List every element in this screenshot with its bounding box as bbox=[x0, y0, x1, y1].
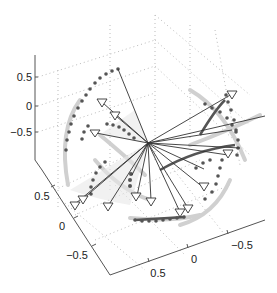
shaded-sectors bbox=[70, 110, 148, 205]
x-tick-label: 0.5 bbox=[150, 267, 165, 279]
x-tick-label: 0 bbox=[191, 253, 197, 265]
y-axis-tick-labels: 0.5 0 −0.5 bbox=[34, 190, 88, 261]
x-axis-tick-labels: 0.5 0 −0.5 bbox=[150, 239, 253, 279]
z-tick-label: 0.5 bbox=[17, 71, 32, 83]
x-tick-label: −0.5 bbox=[231, 239, 253, 251]
z-axis-tick-labels: 0.5 0 −0.5 bbox=[10, 71, 32, 138]
z-tick-label: 0 bbox=[26, 100, 32, 112]
3d-plot: 0.5 0 −0.5 0.5 0 −0.5 0.5 0 −0.5 bbox=[0, 0, 277, 293]
z-tick-label: −0.5 bbox=[10, 126, 32, 138]
y-tick-label: −0.5 bbox=[66, 249, 88, 261]
y-tick-label: 0 bbox=[59, 220, 65, 232]
y-tick-label: 0.5 bbox=[34, 190, 49, 202]
